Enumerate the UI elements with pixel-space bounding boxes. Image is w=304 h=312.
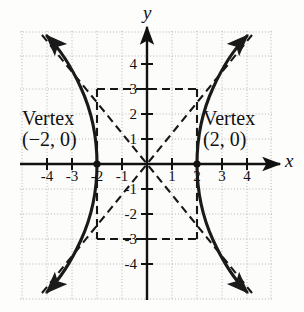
y-axis-label: y <box>143 2 151 24</box>
x-axis-label: x <box>285 150 293 172</box>
vertex-right-point: (2, 0) <box>203 129 255 150</box>
vertex-annotation-left: Vertex (−2, 0) <box>22 108 77 150</box>
x-tick-label--2: -2 <box>87 168 107 185</box>
vertex-point-left <box>93 160 100 167</box>
y-tick-label--3: -3 <box>118 231 137 248</box>
x-tick-label--4: -4 <box>37 168 57 185</box>
y-tick-label--1: -1 <box>118 181 137 198</box>
hyperbola-figure: y x -4 -3 -2 -1 1 2 3 4 4 3 2 1 -1 -2 -3… <box>0 0 304 312</box>
x-tick-label-4: 4 <box>240 168 254 185</box>
plot-canvas <box>0 0 304 312</box>
x-tick-label-1: 1 <box>165 168 179 185</box>
y-tick-label--4: -4 <box>118 256 137 273</box>
vertex-right-title: Vertex <box>203 108 255 129</box>
vertex-point-right <box>193 160 200 167</box>
y-tick-label-4: 4 <box>123 56 137 73</box>
vertex-left-point: (−2, 0) <box>22 129 77 150</box>
y-tick-label-2: 2 <box>123 106 137 123</box>
y-tick-label-1: 1 <box>123 131 137 148</box>
y-tick-label--2: -2 <box>118 206 137 223</box>
x-tick-label-2: 2 <box>190 168 204 185</box>
y-tick-label-3: 3 <box>123 81 137 98</box>
x-tick-label--3: -3 <box>62 168 82 185</box>
vertex-left-title: Vertex <box>22 108 77 129</box>
x-tick-label-3: 3 <box>215 168 229 185</box>
vertex-annotation-right: Vertex (2, 0) <box>203 108 255 150</box>
